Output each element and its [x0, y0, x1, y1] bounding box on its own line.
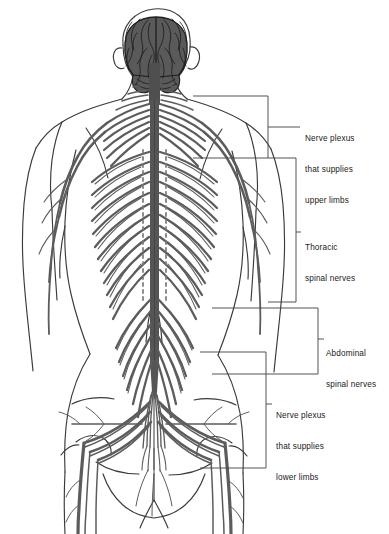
label-lower-limb-plexus: Nerve plexus that supplies lower limbs: [276, 391, 326, 493]
label-lower-limb-line1: Nerve plexus: [276, 411, 326, 421]
label-thoracic-spinal-nerves: Thoracic spinal nerves: [305, 223, 355, 294]
label-upper-limb-plexus: Nerve plexus that supplies upper limbs: [305, 114, 355, 216]
label-abdominal-line2: spinal nerves: [326, 380, 376, 390]
label-upper-limb-line1: Nerve plexus: [305, 134, 355, 144]
brainstem: [149, 63, 160, 105]
label-lower-limb-line3: lower limbs: [276, 473, 326, 483]
label-upper-limb-line2: that supplies: [305, 165, 355, 175]
label-abdominal-line1: Abdominal: [326, 349, 376, 359]
label-upper-limb-line3: upper limbs: [305, 196, 355, 206]
label-lower-limb-line2: that supplies: [276, 442, 326, 452]
label-thoracic-line2: spinal nerves: [305, 274, 355, 284]
label-thoracic-line1: Thoracic: [305, 243, 355, 253]
label-abdominal-spinal-nerves: Abdominal spinal nerves: [326, 329, 376, 400]
